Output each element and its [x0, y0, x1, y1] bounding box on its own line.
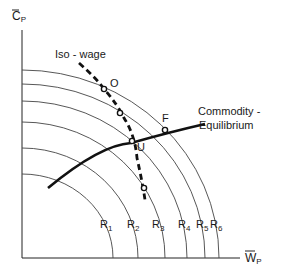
- point-o: [101, 86, 106, 91]
- arc-label-r2: R2: [127, 218, 140, 233]
- arc-label-r1: R1: [100, 218, 113, 233]
- point-o-label: O: [110, 77, 119, 89]
- iso-wage-label: Iso - wage: [55, 48, 106, 60]
- y-axis-label: CP: [12, 9, 26, 24]
- x-axis-label: WP: [245, 251, 262, 266]
- arc-labels: R1R2R3R4R5R6: [100, 218, 223, 233]
- point-u: [129, 138, 134, 143]
- point-intermediate-1: [117, 110, 122, 115]
- arc-r1: [22, 174, 113, 258]
- commodity-label-line2: Equilibrium: [199, 119, 253, 131]
- arc-label-r3: R3: [152, 218, 165, 233]
- commodity-equilibrium-curve: [48, 124, 205, 188]
- point-f-label: F: [162, 112, 169, 124]
- point-u-label: U: [137, 141, 145, 153]
- arc-r4: [22, 101, 187, 258]
- commodity-label-line1: Commodity -: [198, 105, 261, 117]
- point-f: [162, 127, 167, 132]
- point-intermediate-2: [141, 185, 146, 190]
- arc-r5: [22, 84, 205, 258]
- arc-label-r6: R6: [210, 218, 223, 233]
- diagram-canvas: CP WP O U F Iso - wage Commodity - Equil…: [0, 0, 300, 272]
